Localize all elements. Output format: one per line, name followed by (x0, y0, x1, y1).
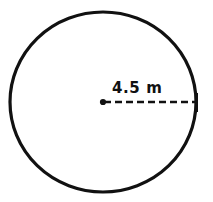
radius-dimension-label: 4.5 m (112, 80, 162, 97)
circle-diagram-svg (0, 0, 213, 202)
geometry-figure: 4.5 m (0, 0, 213, 202)
center-point-dot (100, 99, 106, 105)
